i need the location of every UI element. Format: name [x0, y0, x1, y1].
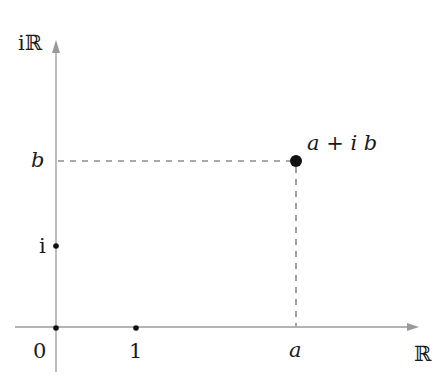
- real-axis-label: ℝ: [414, 344, 431, 365]
- point-label: a + i b: [307, 133, 377, 154]
- point-origin: [53, 325, 59, 331]
- tick-label-i: i: [39, 236, 46, 257]
- imaginary-axis-arrow-icon: [52, 40, 60, 53]
- imaginary-axis-label: iℝ: [18, 33, 42, 54]
- tick-label-b: b: [31, 150, 44, 171]
- tick-label-a: a: [289, 340, 302, 361]
- real-axis-arrow-icon: [407, 323, 419, 331]
- tick-label-origin: 0: [33, 341, 46, 362]
- tick-label-one: 1: [129, 341, 142, 362]
- point-i: [53, 243, 59, 249]
- complex-plane-diagram: [0, 0, 448, 387]
- point-one: [133, 325, 139, 331]
- point-a-plus-ib: [290, 155, 302, 167]
